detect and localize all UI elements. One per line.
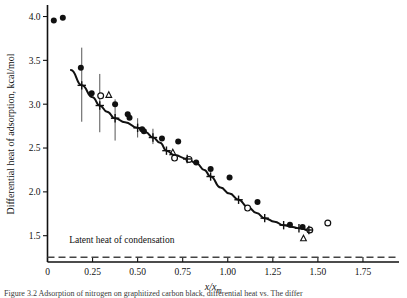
x-tick-label: 1.75 bbox=[355, 267, 372, 277]
data-point-filled-circle bbox=[51, 17, 57, 23]
latent-heat-of-condensation-label: Latent heat of condensation bbox=[69, 235, 175, 245]
figure-caption: Figure 3.2 Adsorption of nitrogen on gra… bbox=[0, 289, 407, 298]
x-tick-label: 0.50 bbox=[129, 267, 146, 277]
x-tick-label: 1.00 bbox=[219, 267, 236, 277]
y-axis-title: Differential heat of adsorption, kcal/mo… bbox=[5, 53, 16, 214]
data-point-open-circle bbox=[98, 93, 104, 99]
data-point-filled-circle bbox=[112, 101, 118, 107]
x-tick-label: 0 bbox=[45, 267, 50, 277]
data-point-open-circle bbox=[245, 205, 251, 211]
data-point-filled-circle bbox=[208, 166, 214, 172]
data-point-filled-circle bbox=[300, 224, 306, 230]
x-tick-label: 1.50 bbox=[310, 267, 327, 277]
data-point-open-circle bbox=[172, 155, 178, 161]
y-tick-label: 3.0 bbox=[29, 100, 41, 110]
x-tick-label: 0.75 bbox=[174, 267, 191, 277]
x-tick-label: 0.25 bbox=[84, 267, 101, 277]
data-point-filled-circle bbox=[78, 65, 84, 71]
data-point-filled-circle bbox=[254, 199, 260, 205]
data-point-filled-circle bbox=[127, 115, 133, 121]
data-point-filled-circle bbox=[287, 222, 293, 228]
y-tick-label: 4.0 bbox=[29, 12, 41, 22]
y-tick-label: 2.5 bbox=[29, 143, 41, 153]
data-point-filled-circle bbox=[141, 128, 147, 134]
data-point-filled-circle bbox=[60, 15, 66, 21]
y-tick-label: 3.5 bbox=[29, 56, 41, 66]
data-point-filled-circle bbox=[175, 138, 181, 144]
data-point-filled-circle bbox=[193, 159, 199, 165]
x-tick-label: 1.25 bbox=[265, 267, 282, 277]
chart-canvas: 1.52.02.53.03.54.000.250.500.751.001.251… bbox=[0, 0, 407, 298]
figure-container: 1.52.02.53.03.54.000.250.500.751.001.251… bbox=[0, 0, 407, 298]
data-point-filled-circle bbox=[159, 135, 165, 141]
data-point-open-triangle bbox=[301, 235, 307, 241]
data-point-filled-circle bbox=[227, 174, 233, 180]
smoothed-fit-curve bbox=[71, 70, 309, 230]
data-point-filled-circle bbox=[89, 90, 95, 96]
y-tick-label: 2.0 bbox=[29, 187, 41, 197]
data-point-open-circle bbox=[325, 220, 331, 226]
y-tick-label: 1.5 bbox=[29, 231, 41, 241]
data-point-open-triangle bbox=[106, 92, 112, 98]
